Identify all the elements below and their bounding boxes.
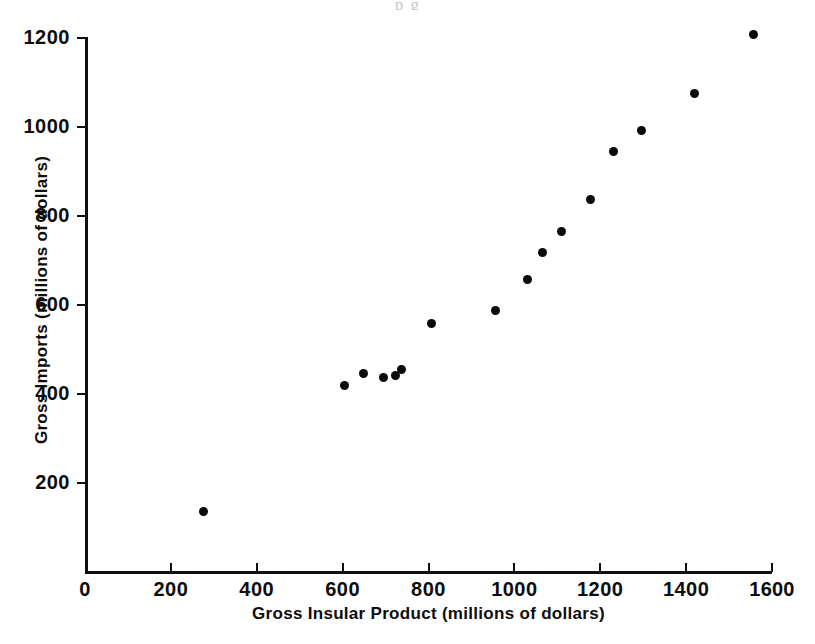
x-tick-mark	[256, 563, 258, 572]
y-tick-mark	[77, 304, 86, 306]
data-point	[523, 275, 532, 284]
data-point	[690, 89, 699, 98]
x-tick-mark	[771, 563, 773, 572]
data-point	[199, 507, 208, 516]
y-axis-title: Gross Imports (millions of dollars)	[32, 90, 52, 510]
data-point	[538, 248, 547, 257]
y-tick-mark	[77, 482, 86, 484]
data-point	[397, 365, 406, 374]
data-point	[637, 126, 646, 135]
data-point	[340, 381, 349, 390]
x-tick-label: 400	[212, 578, 302, 601]
y-tick-label: 1200	[0, 26, 70, 46]
x-tick-mark	[428, 563, 430, 572]
data-point	[359, 369, 368, 378]
x-tick-mark	[599, 563, 601, 572]
scatter-plot-figure: p g 20040060080010001200 020040060080010…	[0, 0, 815, 644]
x-tick-label: 600	[298, 578, 388, 601]
data-point	[379, 373, 388, 382]
y-tick-mark	[77, 37, 86, 39]
x-tick-label: 200	[126, 578, 216, 601]
x-tick-label: 1000	[469, 578, 559, 601]
plot-area: 20040060080010001200 0200400600800100012…	[0, 0, 815, 644]
data-point	[491, 306, 500, 315]
data-point	[609, 147, 618, 156]
x-tick-label: 1400	[641, 578, 731, 601]
x-tick-mark	[513, 563, 515, 572]
data-point	[557, 227, 566, 236]
x-tick-label: 1200	[555, 578, 645, 601]
x-tick-label: 0	[40, 578, 130, 601]
y-tick-mark	[77, 393, 86, 395]
x-tick-label: 800	[384, 578, 474, 601]
x-tick-mark	[685, 563, 687, 572]
y-tick-label-text: 1200	[6, 26, 70, 49]
y-tick-mark	[77, 215, 86, 217]
x-tick-mark	[170, 563, 172, 572]
y-tick-mark	[77, 126, 86, 128]
x-tick-label: 1600	[727, 578, 815, 601]
x-tick-mark	[342, 563, 344, 572]
x-axis-title: Gross Insular Product (millions of dolla…	[85, 604, 772, 624]
data-point	[749, 30, 758, 39]
data-point	[586, 195, 595, 204]
data-point	[427, 319, 436, 328]
